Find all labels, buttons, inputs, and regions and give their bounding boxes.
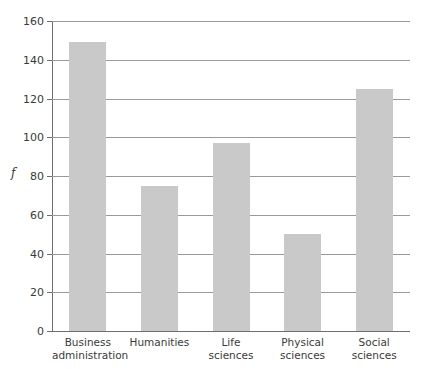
plot-area: 020406080100120140160: [52, 21, 410, 331]
gridline: [52, 21, 410, 22]
y-axis-tick-mark: [47, 137, 52, 138]
bar-chart: f 020406080100120140160 Business adminis…: [0, 0, 424, 369]
x-axis-category-label: Life sciences: [195, 336, 267, 361]
y-axis-tick-label: 60: [30, 209, 44, 220]
x-axis-category-label: Humanities: [124, 336, 196, 349]
bar: [213, 143, 250, 331]
y-axis-tick-mark: [47, 99, 52, 100]
y-axis-title: f: [11, 166, 15, 180]
bar: [284, 234, 321, 331]
y-axis-tick-mark: [47, 176, 52, 177]
bar: [356, 89, 393, 331]
bar: [69, 42, 106, 331]
x-axis-category-label: Business administration: [52, 336, 124, 361]
y-axis-tick-label: 0: [37, 326, 44, 337]
y-axis-tick-label: 120: [23, 93, 44, 104]
y-axis-tick-mark: [47, 254, 52, 255]
y-axis-tick-mark: [47, 21, 52, 22]
y-axis-tick-mark: [47, 215, 52, 216]
x-axis-category-label: Social sciences: [338, 336, 410, 361]
x-axis-line: [52, 331, 410, 332]
y-axis-tick-mark: [47, 331, 52, 332]
y-axis-tick-label: 140: [23, 54, 44, 65]
y-axis-tick-mark: [47, 292, 52, 293]
y-axis-tick-mark: [47, 60, 52, 61]
bar: [141, 186, 178, 331]
y-axis-tick-label: 100: [23, 132, 44, 143]
x-axis-category-label: Physical sciences: [267, 336, 339, 361]
y-axis-tick-label: 80: [30, 171, 44, 182]
y-axis-tick-label: 40: [30, 248, 44, 259]
y-axis-tick-label: 160: [23, 16, 44, 27]
y-axis-tick-label: 20: [30, 287, 44, 298]
